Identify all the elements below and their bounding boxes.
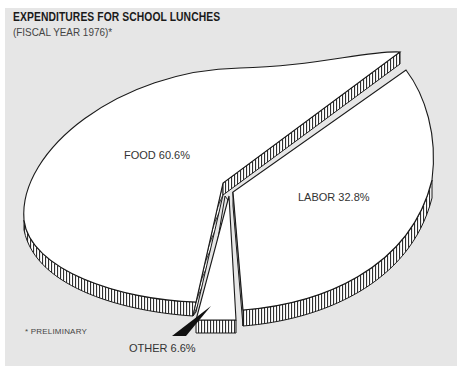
footnote: * PRELIMINARY bbox=[25, 327, 87, 336]
pie-chart bbox=[0, 0, 464, 370]
labor-label: LABOR 32.8% bbox=[298, 191, 370, 203]
other-label: OTHER 6.6% bbox=[129, 342, 196, 354]
food-label: FOOD 60.6% bbox=[124, 149, 190, 161]
